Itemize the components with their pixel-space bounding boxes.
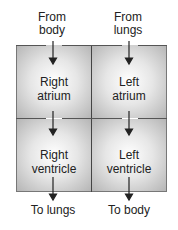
arrow-down-icon [50,129,57,135]
arrow-down-icon [126,194,133,200]
flow-arrows [0,0,178,230]
arrow-down-icon [126,58,133,64]
arrow-down-icon [50,194,57,200]
output-label-to-body: To body [94,204,164,217]
arrow-down-icon [50,58,57,64]
output-label-to-lungs: To lungs [18,204,88,217]
arrow-down-icon [126,129,133,135]
